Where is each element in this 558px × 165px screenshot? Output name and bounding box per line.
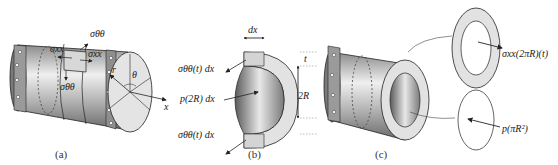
pressure-force-label: p(2R) dx [179,93,215,105]
thickness-label: t [304,53,307,64]
dx-label: dx [248,24,258,35]
panel-a: σθθ σxx σxx σθθ r θ x (a) [10,28,169,161]
end-pressure-force-label: p(πR²) [501,123,528,135]
panel-c: σxx(2πR)(t) p(πR²) (c) [324,8,549,161]
axial-stress-right-label: σxx [88,48,102,59]
axial-stress-left-label: σxx [50,43,64,54]
angle-label: θ [132,69,137,80]
radius-label: r [112,64,116,75]
panel-b: dx t 2R σθθ(t) dx p(2R) dx σθθ(t) dx (b) [178,24,318,161]
thin-walled-cylinder-diagram: σθθ σxx σxx σθθ r θ x (a) dx t 2R σθθ(t)… [0,0,558,165]
hoop-stress-bottom-label: σθθ [60,81,75,92]
bottom-hoop-force-label: σθθ(t) dx [178,129,215,141]
caption-b: (b) [248,148,261,161]
axial-force-label: σxx(2πR)(t) [502,48,549,60]
caption-c: (c) [375,148,388,161]
axis-x-label: x [163,101,169,112]
diameter-label: 2R [298,90,309,101]
top-hoop-force-label: σθθ(t) dx [178,63,215,75]
caption-a: (a) [55,148,68,161]
hoop-stress-top-label: σθθ [90,28,105,39]
